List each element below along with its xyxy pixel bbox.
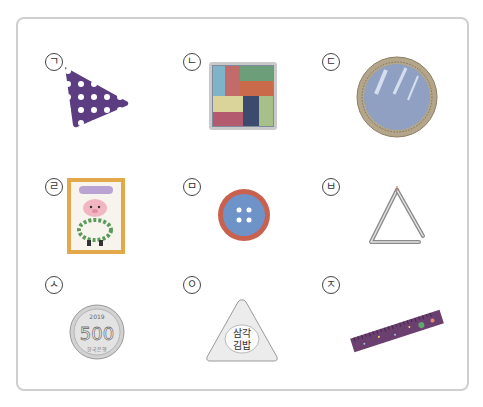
ruler-image <box>348 306 446 356</box>
label-bieup: ㅂ <box>322 178 340 196</box>
label-ieung: ㅇ <box>183 276 201 294</box>
coin-year: 2019 <box>89 313 104 320</box>
coin-bottom-text: 한국은행 <box>87 346 107 353</box>
kimbap-text-line1: 삼각 <box>233 328 251 339</box>
label-jieut: ㅈ <box>322 276 340 294</box>
triangle-scarf-image <box>62 65 132 130</box>
button-image <box>217 188 271 242</box>
kimbap-text-line2: 김밥 <box>233 340 251 351</box>
triangle-kimbap-image: 삼각 김밥 <box>204 297 280 365</box>
label-siot: ㅅ <box>45 276 63 294</box>
label-rieul: ㄹ <box>45 178 63 196</box>
patchwork-square-image <box>209 62 277 130</box>
label-nieun: ㄴ <box>183 53 201 71</box>
picture-book-image <box>67 178 125 254</box>
label-mieum: ㅁ <box>183 178 201 196</box>
coin-value: 500 <box>80 323 114 344</box>
round-mirror-image <box>356 56 438 138</box>
label-giyeok: ㄱ <box>45 53 63 71</box>
500-won-coin-image: 2019 500 한국은행 <box>69 304 125 360</box>
label-digeut: ㄷ <box>322 53 340 71</box>
triangle-instrument-image <box>365 186 431 248</box>
